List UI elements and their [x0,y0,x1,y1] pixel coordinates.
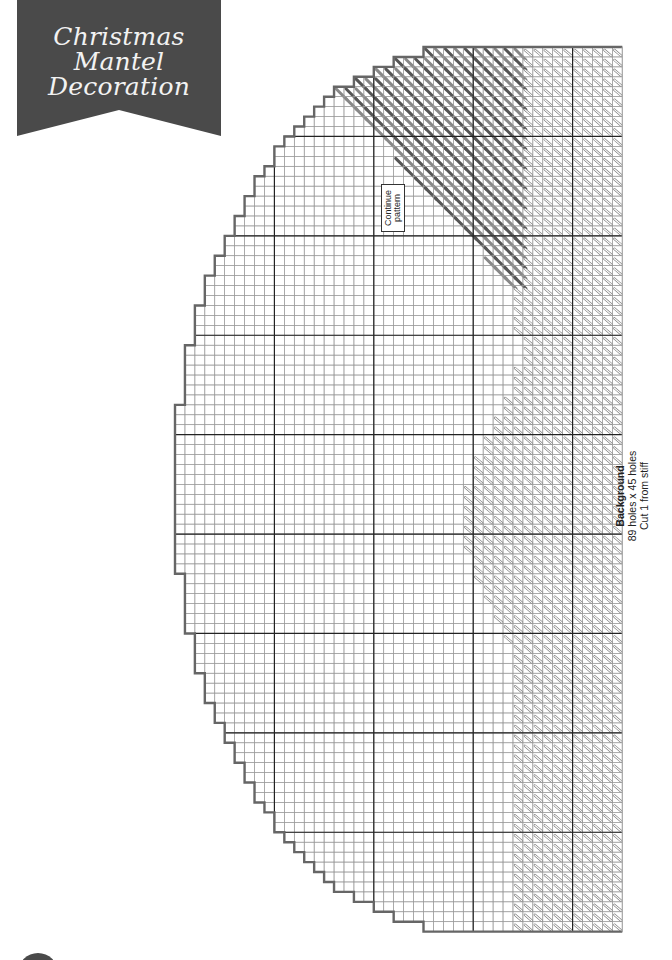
pattern-name: Background [614,451,626,541]
continue-pattern-note: Continue pattern [381,184,405,232]
pattern-cut-instructions: Cut 1 from stiff [638,451,650,541]
plastic-canvas-grid-chart [0,0,672,960]
pattern-caption: Background 89 holes x 45 holes Cut 1 fro… [614,451,650,541]
pattern-size: 89 holes x 45 holes [626,451,638,541]
note-line-2: pattern [393,190,402,226]
